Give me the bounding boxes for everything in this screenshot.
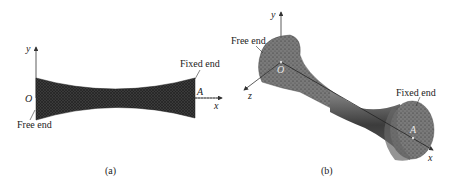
free-end-label-b: Free end bbox=[231, 35, 266, 46]
fixed-end-label-a: Fixed end bbox=[180, 58, 220, 69]
origin-label-b: O bbox=[277, 64, 284, 75]
point-a-label-b: A bbox=[409, 124, 417, 135]
caption-b: (b) bbox=[321, 165, 333, 177]
beam-shape-a bbox=[36, 78, 195, 120]
y-label-a: y bbox=[25, 43, 31, 54]
z-label-b: z bbox=[247, 90, 252, 101]
point-a-label-a: A bbox=[196, 86, 204, 97]
free-end-label-a: Free end bbox=[17, 119, 52, 130]
origin-label-a: O bbox=[25, 93, 32, 104]
figure: y O A x Free end Fixed end (a) y O A z x bbox=[0, 0, 454, 187]
fixed-end-label-b: Fixed end bbox=[396, 87, 436, 98]
y-label-b: y bbox=[270, 9, 276, 20]
x-label-a: x bbox=[213, 100, 219, 111]
panel-b: y O A z x Free end Fixed end (b) bbox=[231, 9, 436, 177]
x-label-b: x bbox=[427, 152, 433, 163]
caption-a: (a) bbox=[105, 165, 116, 177]
panel-a: y O A x Free end Fixed end (a) bbox=[17, 43, 222, 177]
